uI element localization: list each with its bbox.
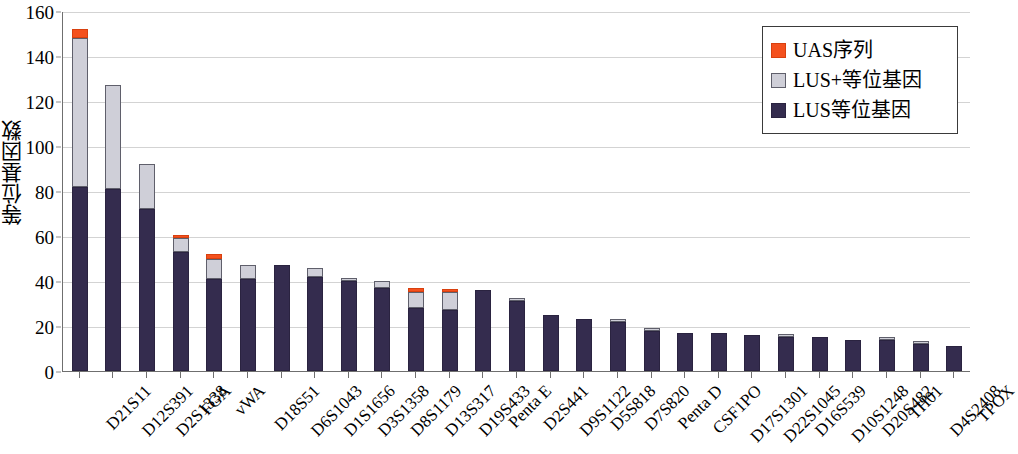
x-tick-mark [415, 372, 416, 378]
bar-column[interactable] [711, 333, 727, 371]
bar-segment [913, 341, 929, 344]
legend-label: LUS+等位基因 [793, 69, 922, 91]
y-tick-mark [56, 327, 61, 328]
x-tick-mark [920, 372, 921, 378]
x-tick-mark [247, 372, 248, 378]
x-tick-mark [886, 372, 887, 378]
x-tick-mark [348, 372, 349, 378]
bar-column[interactable] [408, 288, 424, 371]
x-tick-mark [550, 372, 551, 378]
y-tick-label: 20 [35, 318, 54, 337]
x-tick-mark [281, 372, 282, 378]
y-tick-mark [56, 57, 61, 58]
y-tick-mark [56, 192, 61, 193]
x-tick-mark [751, 372, 752, 378]
bar-segment [644, 331, 660, 372]
bar-column[interactable] [139, 164, 155, 371]
x-axis-label[interactable]: vWA [232, 382, 269, 419]
legend-swatch-icon [771, 73, 786, 88]
legend-item[interactable]: UAS序列 [771, 35, 947, 65]
bar-segment [341, 281, 357, 371]
bar-segment [72, 187, 88, 372]
x-axis-label[interactable]: TH01 [906, 382, 946, 422]
bar-segment [509, 298, 525, 301]
y-tick-mark [56, 282, 61, 283]
bar-segment [879, 340, 895, 372]
bar-column[interactable] [576, 319, 592, 371]
bar-segment [72, 29, 88, 38]
bar-column[interactable] [72, 29, 88, 371]
bar-segment [105, 85, 121, 189]
bar-segment [442, 289, 458, 292]
y-tick-label: 160 [26, 3, 55, 22]
y-tick-label: 100 [26, 138, 55, 157]
y-tick-label: 80 [35, 183, 54, 202]
x-tick-mark [953, 372, 954, 378]
y-tick-mark [56, 147, 61, 148]
y-tick-label: 140 [26, 48, 55, 67]
bar-segment [206, 254, 222, 259]
bar-segment [442, 292, 458, 310]
y-tick-mark [56, 237, 61, 238]
bar-column[interactable] [879, 337, 895, 371]
legend-swatch-icon [771, 103, 786, 118]
x-tick-mark [79, 372, 80, 378]
bar-column[interactable] [744, 335, 760, 371]
bar-segment [173, 252, 189, 371]
legend-item[interactable]: LUS等位基因 [771, 95, 947, 125]
bar-column[interactable] [946, 346, 962, 371]
bar-column[interactable] [341, 279, 357, 371]
bar-column[interactable] [307, 268, 323, 372]
bar-column[interactable] [206, 254, 222, 371]
x-tick-mark [852, 372, 853, 378]
bar-segment [274, 265, 290, 371]
bar-segment [173, 238, 189, 252]
bar-segment [845, 340, 861, 372]
bar-segment [644, 328, 660, 331]
bar-column[interactable] [778, 335, 794, 371]
y-tick-mark [56, 12, 61, 13]
bar-segment [173, 235, 189, 238]
bar-segment [408, 308, 424, 371]
bar-column[interactable] [913, 342, 929, 371]
y-tick-label: 40 [35, 273, 54, 292]
bar-column[interactable] [610, 319, 626, 371]
bar-segment [576, 319, 592, 371]
x-axis-label[interactable]: TPOX [974, 382, 1017, 425]
bar-column[interactable] [274, 265, 290, 371]
bar-segment [744, 335, 760, 371]
bar-column[interactable] [240, 265, 256, 371]
bar-column[interactable] [845, 340, 861, 372]
x-tick-mark [213, 372, 214, 378]
x-tick-mark [516, 372, 517, 378]
bar-column[interactable] [475, 290, 491, 371]
bar-segment [610, 322, 626, 372]
chart-legend: UAS序列LUS+等位基因LUS等位基因 [762, 26, 958, 134]
x-tick-mark [718, 372, 719, 378]
bar-column[interactable] [374, 281, 390, 371]
bar-column[interactable] [105, 85, 121, 371]
bar-segment [408, 288, 424, 293]
x-tick-mark [449, 372, 450, 378]
x-tick-mark [381, 372, 382, 378]
bar-column[interactable] [677, 333, 693, 371]
legend-item[interactable]: LUS+等位基因 [771, 65, 947, 95]
bar-segment [946, 346, 962, 371]
bar-column[interactable] [812, 337, 828, 371]
bar-column[interactable] [644, 328, 660, 371]
x-tick-mark [314, 372, 315, 378]
bar-segment [711, 333, 727, 371]
x-tick-mark [651, 372, 652, 378]
bar-column[interactable] [442, 290, 458, 371]
bar-segment [307, 277, 323, 372]
bar-column[interactable] [509, 299, 525, 371]
bar-segment [374, 288, 390, 371]
y-tick-label: 120 [26, 93, 55, 112]
bar-segment [341, 278, 357, 281]
bar-column[interactable] [173, 236, 189, 371]
bar-segment [543, 315, 559, 371]
x-tick-mark [112, 372, 113, 378]
x-tick-mark [684, 372, 685, 378]
bar-segment [442, 310, 458, 371]
bar-column[interactable] [543, 315, 559, 371]
